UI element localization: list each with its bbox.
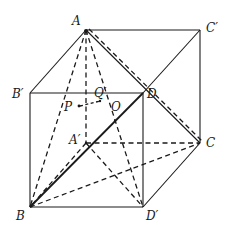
label-C: C <box>206 137 215 149</box>
point-P-dot <box>78 105 81 108</box>
vertex-A-dot <box>84 29 88 33</box>
label-B: B <box>16 210 25 222</box>
label-A: A <box>72 15 81 27</box>
label-P: P <box>64 101 72 113</box>
edge-D-C1 <box>143 30 200 93</box>
label-B1: B′ <box>12 88 24 100</box>
cube-diagram <box>0 0 232 232</box>
point-O-dot <box>114 120 116 122</box>
label-Q1: Q′ <box>94 87 107 99</box>
edge-A1-D1 <box>86 143 143 207</box>
edge-A-B1 <box>30 30 86 93</box>
vertex-B-dot <box>29 204 32 207</box>
vertex-A1-dot <box>85 142 87 144</box>
label-D1: D′ <box>146 210 158 222</box>
edge-A-D1 <box>86 30 143 207</box>
point-Q1-dot <box>99 100 101 102</box>
point-markers <box>29 29 116 208</box>
label-A1: A′ <box>69 134 80 146</box>
label-C1: C′ <box>206 22 218 34</box>
edge-D1-C <box>143 143 200 207</box>
edge-A-B <box>30 30 86 207</box>
label-D: D <box>147 88 157 100</box>
edge-P-Q1 <box>80 101 100 106</box>
label-O: O <box>111 101 121 113</box>
solid-edges <box>30 30 200 207</box>
